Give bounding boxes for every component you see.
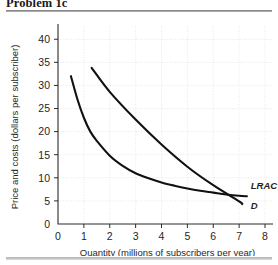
x-tick-label: 0 [55, 230, 61, 242]
y-axis-tick-labels: 0510152025303540 [38, 33, 50, 230]
x-tick-label: 4 [159, 230, 165, 242]
series-curve-lrac [71, 76, 247, 196]
y-tick-label: 10 [38, 172, 50, 184]
y-tick-label: 5 [44, 195, 50, 207]
y-tick-label: 15 [38, 149, 50, 161]
x-axis-ticks [84, 224, 265, 228]
grid-lines [58, 26, 273, 224]
y-tick-label: 35 [38, 56, 50, 68]
axis-spines [58, 24, 273, 224]
y-tick-label: 25 [38, 102, 50, 114]
x-tick-label: 7 [236, 230, 242, 242]
x-axis-title: Quantity (millions of subscribers per ye… [80, 247, 255, 256]
x-tick-label: 8 [262, 230, 268, 242]
curve-label-d: D [251, 200, 258, 211]
y-axis-ticks [54, 39, 58, 201]
chart-figure: 012345678 0510152025303540 LRAC D Quanti… [0, 12, 278, 256]
x-tick-label: 6 [210, 230, 216, 242]
y-tick-label: 30 [38, 79, 50, 91]
x-tick-label: 3 [133, 230, 139, 242]
y-tick-label: 0 [44, 218, 50, 230]
y-tick-label: 40 [38, 33, 50, 45]
y-axis-title: Price and costs (dollars per subscriber) [9, 45, 20, 210]
curve-label-lrac: LRAC [251, 180, 278, 191]
x-axis-tick-labels: 012345678 [55, 230, 268, 242]
y-tick-label: 20 [38, 125, 50, 137]
footer-rule [6, 257, 272, 260]
x-tick-label: 1 [81, 230, 87, 242]
chart-svg: 012345678 0510152025303540 LRAC D Quanti… [0, 12, 278, 256]
x-tick-label: 5 [184, 230, 190, 242]
x-tick-label: 2 [107, 230, 113, 242]
